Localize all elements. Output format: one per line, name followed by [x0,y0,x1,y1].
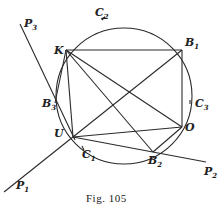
segment-k-b3 [55,50,66,103]
label-b3: B3 [41,97,56,112]
label-p3: P3 [23,17,37,32]
label-p2: P2 [203,165,217,180]
label-b1: B1 [184,36,199,51]
label-c2: C2 [95,6,109,21]
line-p1-b1 [4,50,182,192]
label-c1: C1 [82,148,96,163]
line-p3 [20,24,75,140]
label-p1: P1 [15,179,29,194]
segment-k-o [66,50,182,127]
label-u: U [54,127,65,140]
label-c3: C3 [195,97,209,112]
segment-u-o [73,127,182,137]
figure-caption: Fig. 105 [86,192,127,204]
label-b2: B2 [147,154,162,169]
label-o: O [185,121,195,134]
label-k: K [53,44,64,57]
diagram-figure: K B1 B2 B3 O U C1 C2 C3 P1 P2 P3 Fig. 10… [0,0,220,206]
